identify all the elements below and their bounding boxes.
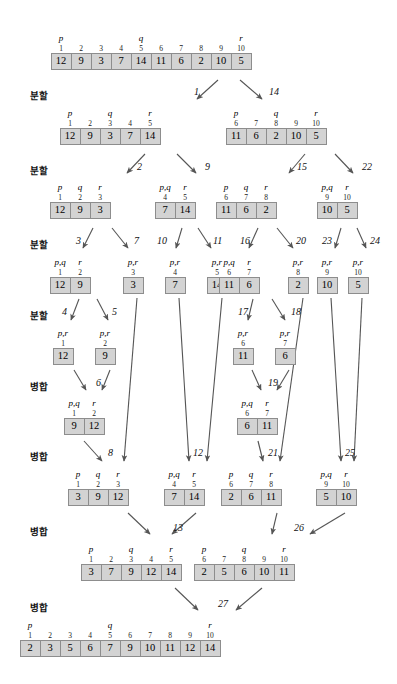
flow-arrow	[97, 299, 108, 320]
index-number: 2	[80, 119, 101, 128]
flow-arrow	[354, 298, 362, 461]
stage-label-3: 분할	[30, 308, 48, 322]
index-number: 7	[241, 480, 262, 489]
index-row: 2	[95, 339, 116, 348]
pointer-row: p,r	[165, 257, 186, 268]
pointer-q: q	[88, 469, 109, 480]
pointer-row: p,qr	[219, 257, 260, 268]
array-cell: 2	[266, 128, 287, 145]
pointer-q: q	[70, 182, 91, 193]
pointer-row: p,r	[317, 257, 338, 268]
array-cells: 2561011	[194, 564, 295, 581]
array-cells: 1293	[50, 202, 111, 219]
pointer-row: pqr	[51, 33, 252, 44]
array-cell: 3	[81, 564, 102, 581]
index-number: 9	[211, 44, 232, 53]
array-d3a: p,qr12129	[50, 277, 91, 294]
index-number: 9	[254, 555, 275, 564]
pointer-p-r: p,r	[90, 328, 120, 339]
pointer-row: p,qr	[316, 469, 357, 480]
flow-arrow	[258, 441, 263, 461]
index-number: 5	[161, 555, 182, 564]
array-cell: 12	[108, 489, 129, 506]
index-number: 2	[95, 339, 116, 348]
flow-arrow	[124, 298, 137, 461]
pointer-p: p	[68, 469, 89, 480]
array-cell: 3	[91, 53, 112, 70]
index-number: 10	[200, 631, 221, 640]
pointer-row: pqr	[81, 544, 182, 555]
index-number: 4	[120, 119, 141, 128]
step-number: 5	[112, 306, 117, 317]
index-number: 8	[266, 119, 287, 128]
index-row: 9	[317, 268, 338, 277]
step-number: 24	[370, 235, 380, 246]
flow-arrow	[335, 154, 353, 173]
array-d4a: p,r112	[53, 348, 74, 365]
index-number: 8	[160, 631, 181, 640]
step-number: 6	[96, 377, 101, 388]
flow-arrow	[248, 299, 253, 320]
index-number: 2	[88, 480, 109, 489]
index-row: 6	[233, 339, 254, 348]
stage-label-1: 분할	[30, 163, 48, 177]
index-number: 10	[348, 268, 369, 277]
pointer-p: p	[81, 544, 102, 555]
pointer-q: q	[100, 108, 121, 119]
stage-label-4: 병합	[30, 379, 48, 393]
array-cell: 12	[50, 202, 71, 219]
pointer-row: p,r	[95, 328, 116, 339]
flow-arrow	[179, 298, 189, 461]
array-cells: 3912	[68, 489, 129, 506]
index-number: 8	[256, 193, 277, 202]
pointer-r: r	[256, 182, 277, 193]
index-row: 45	[164, 480, 205, 489]
array-cell: 9	[121, 564, 142, 581]
index-number: 1	[60, 119, 81, 128]
array-d1R: pqr6789101162105	[226, 128, 327, 145]
pointer-p: p	[226, 108, 247, 119]
pointer-p: p	[50, 182, 71, 193]
index-row: 910	[317, 193, 358, 202]
pointer-r: r	[239, 257, 260, 268]
index-number: 6	[120, 631, 141, 640]
array-cell: 12	[60, 128, 81, 145]
array-cells: 714	[155, 202, 196, 219]
pointer-q: q	[131, 33, 152, 44]
step-number: 1	[194, 86, 199, 97]
flow-arrow	[175, 588, 198, 610]
index-row: 678910	[194, 555, 295, 564]
pointer-row: pqr	[60, 108, 161, 119]
array-cell: 9	[95, 348, 116, 365]
array-cell: 12	[141, 564, 162, 581]
pointer-row: pqr	[221, 469, 282, 480]
index-row: 10	[348, 268, 369, 277]
array-d3c: p,r47	[165, 277, 186, 294]
pointer-r: r	[140, 108, 161, 119]
index-number: 4	[111, 44, 132, 53]
pointer-r: r	[337, 182, 358, 193]
index-row: 12345	[81, 555, 182, 564]
array-cell: 6	[80, 640, 101, 657]
array-d3b: p,r33	[123, 277, 144, 294]
array-cell: 2	[256, 202, 277, 219]
index-row: 678	[221, 480, 282, 489]
array-cells: 1162	[216, 202, 277, 219]
pointer-row: p,qr	[317, 182, 358, 193]
pointer-row: p,qr	[164, 469, 205, 480]
step-number: 11	[213, 235, 222, 246]
index-number: 6	[237, 409, 258, 418]
pointer-row: p,qr	[155, 182, 196, 193]
index-number: 1	[53, 339, 74, 348]
step-number: 3	[76, 235, 81, 246]
index-row: 910	[316, 480, 357, 489]
array-m2a: pqr1233912	[68, 489, 129, 506]
array-cells: 2611	[221, 489, 282, 506]
index-row: 12345678910	[20, 631, 221, 640]
merge-sort-diagram: 분할분할분할분할병합병합병합병합pqr123456789101293714116…	[0, 0, 397, 684]
index-number: 2	[71, 44, 92, 53]
index-number: 9	[286, 119, 307, 128]
step-number: 22	[362, 161, 372, 172]
array-cell: 11	[274, 564, 295, 581]
index-row: 4	[165, 268, 186, 277]
